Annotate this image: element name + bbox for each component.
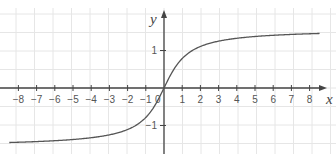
y-axis-label: y: [148, 11, 157, 27]
x-tick-label: 8: [307, 94, 313, 105]
x-tick-label: −6: [49, 94, 61, 105]
x-tick-label: 5: [252, 94, 258, 105]
axes: [0, 10, 327, 154]
x-tick-label: 1: [179, 94, 185, 105]
x-tick-label: −3: [104, 94, 116, 105]
origin-label: 0: [155, 94, 161, 105]
x-tick-label: −5: [67, 94, 79, 105]
x-tick-label: 2: [198, 94, 204, 105]
x-axis-label: x: [325, 91, 333, 107]
function-graph: −8−7−6−5−4−3−2−1123456781−1 0 x y: [0, 0, 336, 154]
x-tick-label: 4: [234, 94, 240, 105]
y-tick-label: 1: [151, 45, 157, 56]
x-tick-label: −2: [122, 94, 134, 105]
x-tick-label: −8: [13, 94, 25, 105]
y-tick-label: −1: [146, 120, 158, 131]
x-tick-label: −4: [85, 94, 97, 105]
x-tick-label: 3: [216, 94, 222, 105]
x-tick-label: 6: [270, 94, 276, 105]
x-tick-label: −1: [140, 94, 152, 105]
x-tick-label: 7: [289, 94, 295, 105]
x-tick-label: −7: [31, 94, 43, 105]
